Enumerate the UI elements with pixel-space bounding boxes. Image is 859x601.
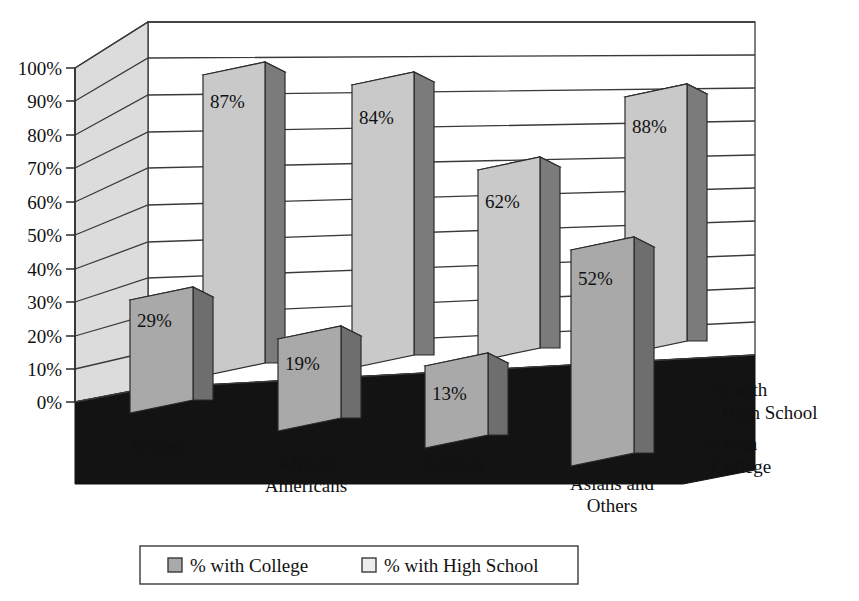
bar-side-face: [687, 84, 707, 341]
bar-college-african-americans[interactable]: 19%: [278, 326, 361, 431]
chart-container: 100% 90% 80% 70% 60% 50% 40% 30% 20% 10%…: [0, 0, 859, 601]
bar-value-label: 87%: [210, 91, 245, 112]
legend-item-college[interactable]: % with College: [168, 555, 308, 576]
y-tick-label-20: 20%: [27, 326, 62, 347]
bar-value-label: 13%: [432, 383, 467, 404]
y-tick-label-10: 10%: [27, 359, 62, 380]
bar-college-asians-others[interactable]: 52%: [571, 237, 654, 466]
bar-highschool-whites[interactable]: 87%: [203, 62, 285, 376]
bar-front-face: [278, 326, 341, 431]
bar-college-latinos[interactable]: 13%: [425, 353, 508, 448]
legend-swatch-college: [168, 558, 182, 572]
bar-value-label: 62%: [485, 191, 520, 212]
bar-value-label: 84%: [359, 107, 394, 128]
bar-front-face: [478, 157, 540, 361]
legend-label-college: % with College: [190, 555, 308, 576]
bar-value-label: 19%: [285, 353, 320, 374]
legend-label-high-school: % with High School: [384, 555, 539, 576]
bar-side-face: [265, 62, 285, 363]
bar-highschool-latinos[interactable]: 62%: [478, 157, 560, 361]
y-tick-label-60: 60%: [27, 192, 62, 213]
bar-highschool-african-americans[interactable]: 84%: [352, 72, 434, 368]
category-label-african-americans-line1: African: [277, 453, 336, 474]
category-label-latinos: Latinos: [427, 453, 484, 474]
bar-front-face: [130, 287, 193, 413]
depth-axis-label-college-line2: College: [712, 456, 771, 477]
bar-side-face: [341, 326, 361, 418]
y-tick-label-90: 90%: [27, 91, 62, 112]
y-tick-label-30: 30%: [27, 292, 62, 313]
bar-side-face: [540, 157, 560, 348]
legend-swatch-high-school: [362, 558, 376, 572]
bar-college-whites[interactable]: 29%: [130, 287, 213, 413]
category-label-asians-others-line1: Asians and: [570, 473, 654, 494]
depth-axis-label-college-line1: % with: [703, 433, 758, 454]
y-tick-label-40: 40%: [27, 259, 62, 280]
bar-side-face: [414, 72, 434, 355]
bar-value-label: 88%: [632, 116, 667, 137]
bar-side-face: [488, 353, 508, 435]
y-tick-label-70: 70%: [27, 158, 62, 179]
depth-axis-label-highschool-line2: High School: [722, 402, 818, 423]
category-label-whites: Whites: [130, 435, 184, 456]
bar-chart-3d: 100% 90% 80% 70% 60% 50% 40% 30% 20% 10%…: [0, 0, 859, 601]
bar-side-face: [193, 287, 213, 400]
legend-item-high-school[interactable]: % with High School: [362, 555, 539, 576]
bar-value-label: 52%: [578, 268, 613, 289]
y-axis: 100% 90% 80% 70% 60% 50% 40% 30% 20% 10%…: [18, 58, 75, 413]
y-tick-label-0: 0%: [37, 392, 63, 413]
bar-side-face: [634, 237, 654, 453]
category-label-asians-others-line2: Others: [587, 495, 638, 516]
y-tick-label-80: 80%: [27, 125, 62, 146]
bar-value-label: 29%: [137, 310, 172, 331]
category-label-african-americans-line2: Americans: [265, 475, 347, 496]
y-tick-label-50: 50%: [27, 225, 62, 246]
legend: % with College % with High School: [140, 546, 578, 584]
y-tick-label-100: 100%: [18, 58, 63, 79]
depth-axis-label-highschool-line1: % with: [713, 379, 768, 400]
